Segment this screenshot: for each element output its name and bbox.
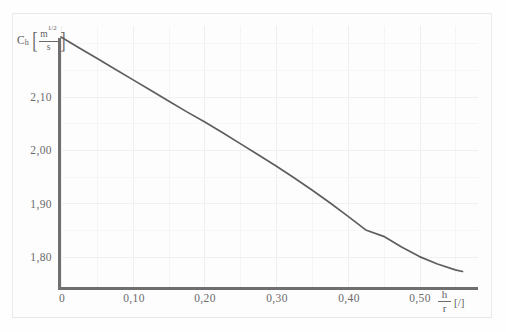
gridline-horizontal-minor [61, 177, 478, 178]
x-axis-line [58, 287, 478, 290]
bracket-close: ] [60, 29, 65, 52]
gridline-vertical [420, 26, 421, 288]
y-tick-label: 1,90 [30, 198, 52, 210]
grid-layer [61, 26, 478, 288]
x-axis-fraction: h r [438, 289, 451, 314]
y-axis-unit-bracket: [ m1/2 s ] [31, 28, 67, 52]
gridline-horizontal-minor [61, 70, 478, 71]
x-axis-title: h r [/] [437, 289, 464, 314]
x-tick-label: 0,10 [123, 292, 145, 304]
figure-canvas: 2,10 2,00 1,90 1,80 0 0,10 0,20 0,30 0,4… [0, 0, 506, 332]
gridline-horizontal [61, 257, 478, 258]
unit-numerator: m1/2 [39, 28, 57, 41]
gridline-horizontal [61, 203, 478, 204]
gridline-horizontal-minor [61, 230, 478, 231]
gridline-vertical-minor [240, 26, 241, 288]
gridline-vertical [61, 26, 62, 288]
gridline-vertical [276, 26, 277, 288]
y-axis-symbol: C [17, 34, 25, 46]
y-axis-unit-fraction: m1/2 s [39, 28, 57, 52]
gridline-vertical [204, 26, 205, 288]
x-tick-label: 0 [59, 292, 65, 304]
unit-numerator-base: m [40, 29, 47, 39]
x-axis-numerator: h [441, 289, 449, 301]
y-tick-label: 1,80 [30, 251, 52, 263]
gridline-vertical-minor [97, 26, 98, 288]
gridline-horizontal-minor [61, 123, 478, 124]
x-tick-label: 0,40 [338, 292, 360, 304]
x-tick-label: 0,30 [266, 292, 288, 304]
gridline-vertical [348, 26, 349, 288]
y-axis-subscript: h [25, 38, 29, 47]
y-axis-line [58, 38, 61, 290]
gridline-vertical-minor [384, 26, 385, 288]
y-tick-label: 2,10 [30, 91, 52, 103]
unit-numerator-exponent: 1/2 [48, 24, 57, 32]
plot-area [61, 26, 478, 288]
gridline-vertical [133, 26, 134, 288]
gridline-horizontal [61, 97, 478, 98]
unit-denominator: s [46, 42, 52, 53]
x-tick-label: 0,20 [194, 292, 216, 304]
x-axis-denominator: r [442, 302, 448, 314]
gridline-vertical-minor [312, 26, 313, 288]
bracket-open: [ [32, 29, 37, 52]
gridline-vertical-minor [169, 26, 170, 288]
gridline-horizontal [61, 150, 478, 151]
y-tick-label: 2,00 [30, 144, 52, 156]
gridline-vertical-minor [455, 26, 456, 288]
x-tick-label: 0,50 [409, 292, 431, 304]
y-axis-title: Ch [ m1/2 s ] [17, 28, 66, 52]
gridline-horizontal-minor [61, 43, 478, 44]
x-axis-unit: [/] [454, 296, 464, 308]
